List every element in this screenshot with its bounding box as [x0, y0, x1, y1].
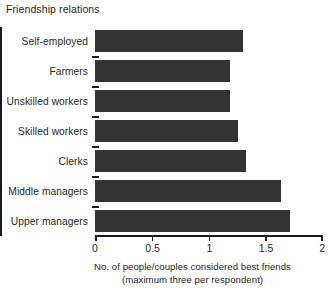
chart-title: Friendship relations	[6, 3, 100, 15]
bar-category-label: Farmers	[49, 66, 88, 77]
bar-category-label: Unskilled workers	[6, 96, 88, 107]
x-axis-tick-label: 0.5	[145, 242, 160, 254]
plot-area: Self-employed Farmers Unskilled workers …	[95, 27, 323, 235]
bar-upper-managers	[95, 210, 290, 232]
y-axis-tick	[92, 86, 99, 88]
x-axis-caption-line1: No. of people/couples considered best fr…	[60, 261, 325, 274]
y-axis-tick	[92, 176, 99, 178]
x-axis-caption-line2: (maximum three per respondent)	[60, 274, 325, 287]
y-axis-tick	[92, 206, 99, 208]
y-axis-line	[0, 27, 2, 236]
x-axis-caption: No. of people/couples considered best fr…	[60, 261, 325, 286]
x-axis-tick-label: 1.5	[259, 242, 274, 254]
bar-middle-managers	[95, 180, 281, 202]
bar-category-label: Skilled workers	[18, 126, 88, 137]
x-axis-tick	[265, 235, 267, 241]
y-axis-tick	[92, 56, 99, 58]
x-axis-tick	[209, 235, 211, 241]
chart-figure: Friendship relations Self-employed Farme…	[0, 0, 329, 300]
bar-category-label: Middle managers	[8, 186, 88, 197]
y-axis-tick	[92, 146, 99, 148]
bar-category-label: Self-employed	[22, 36, 88, 47]
x-axis-tick	[95, 235, 97, 241]
bar-category-label: Upper managers	[11, 216, 88, 227]
bar-skilled-workers	[95, 120, 238, 142]
bar-unskilled-workers	[95, 90, 230, 112]
x-axis-tick-label: 0	[92, 242, 98, 254]
x-axis-tick	[321, 235, 323, 241]
y-axis-tick	[92, 116, 99, 118]
bar-farmers	[95, 60, 230, 82]
bar-category-label: Clerks	[59, 156, 88, 167]
bar-clerks	[95, 150, 246, 172]
x-axis-tick	[152, 235, 154, 241]
x-axis-tick-label: 2	[319, 242, 325, 254]
x-axis-tick-label: 1	[206, 242, 212, 254]
bar-self-employed	[95, 30, 243, 52]
